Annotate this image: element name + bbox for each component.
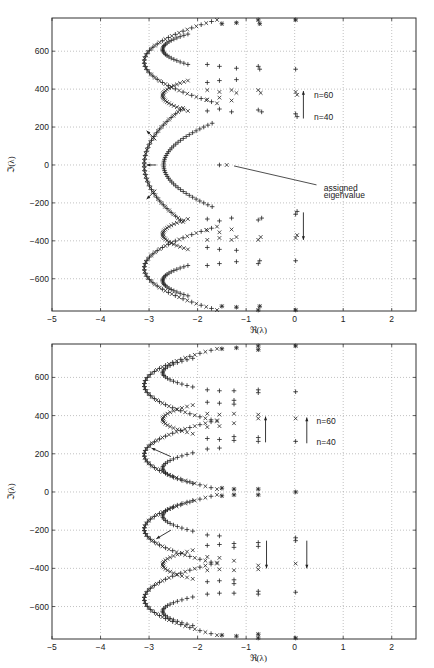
x-tick-label: −2 xyxy=(193,314,203,324)
x-tick-label: −5 xyxy=(47,642,57,652)
x-axis-label: ℜ(λ) xyxy=(250,653,267,663)
y-tick-label: 0 xyxy=(44,487,49,497)
x-tick-label: −4 xyxy=(96,642,106,652)
x-tick-label: 2 xyxy=(389,642,394,652)
arrow-head-icon xyxy=(305,565,308,569)
y-tick-label: 600 xyxy=(35,372,49,382)
eigenvalue-figure: −5−4−3−2−1012−600−400−2000200400600ℜ(λ)ℑ… xyxy=(0,0,434,668)
x-tick-label: −1 xyxy=(241,314,251,324)
arrow-head-icon xyxy=(302,236,305,240)
x-tick-label: −2 xyxy=(193,642,203,652)
x-tick-label: −1 xyxy=(241,642,251,652)
annotation-label: n=40 xyxy=(317,437,336,447)
bottom-eigenvalue-plot: −5−4−3−2−1012−600−400−2000200400600ℜ(λ)ℑ… xyxy=(6,344,416,663)
y-tick-label: −400 xyxy=(30,236,49,246)
y-tick-label: 200 xyxy=(35,122,49,132)
y-tick-label: 0 xyxy=(44,160,49,170)
arrow-head-icon xyxy=(305,418,308,422)
x-tick-label: −3 xyxy=(144,314,154,324)
annotation-label: eigenvalue xyxy=(324,190,365,200)
x-tick-label: −4 xyxy=(96,314,106,324)
x-tick-label: 2 xyxy=(389,314,394,324)
callout-line xyxy=(234,166,317,185)
annotation-label: n=40 xyxy=(314,112,333,122)
arrow-head-icon xyxy=(265,565,268,569)
y-tick-label: −600 xyxy=(30,274,49,284)
y-tick-label: −200 xyxy=(30,198,49,208)
y-tick-label: 400 xyxy=(35,411,49,421)
x-tick-label: 1 xyxy=(341,642,346,652)
top-eigenvalue-plot: −5−4−3−2−1012−600−400−2000200400600ℜ(λ)ℑ… xyxy=(6,18,416,335)
arrow-head-icon xyxy=(264,417,267,421)
y-tick-label: −600 xyxy=(30,602,49,612)
y-tick-label: −200 xyxy=(30,525,49,535)
arrow-head-icon xyxy=(302,91,305,95)
x-tick-label: 0 xyxy=(292,314,297,324)
y-tick-label: 400 xyxy=(35,84,49,94)
x-tick-label: −3 xyxy=(144,642,154,652)
x-axis-label: ℜ(λ) xyxy=(250,325,267,335)
arrow-head-icon xyxy=(147,163,151,166)
plot-frame xyxy=(52,18,416,311)
y-axis-label: ℑ(λ) xyxy=(6,156,16,172)
y-tick-label: 600 xyxy=(35,46,49,56)
y-axis-label: ℑ(λ) xyxy=(6,483,16,499)
annotation-label: n=60 xyxy=(317,416,336,426)
y-tick-label: 200 xyxy=(35,449,49,459)
annotation-label: n=60 xyxy=(314,90,333,100)
x-tick-label: 0 xyxy=(292,642,297,652)
y-tick-label: −400 xyxy=(30,563,49,573)
x-tick-label: −5 xyxy=(47,314,57,324)
x-tick-label: 1 xyxy=(341,314,346,324)
